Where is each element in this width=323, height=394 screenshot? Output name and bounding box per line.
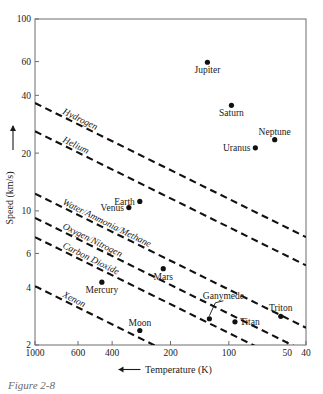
data-point-label: Titan <box>240 317 260 327</box>
plot-area: 10006004002001005040 24610204060100 Hydr… <box>0 0 323 360</box>
y-tick-label: 10 <box>22 206 32 216</box>
x-axis-arrow-head <box>119 367 124 373</box>
gas-line <box>35 103 306 237</box>
data-point-label: Saturn <box>219 108 244 118</box>
data-point-label: Venus <box>101 203 125 213</box>
data-point <box>137 328 142 333</box>
data-point-label: Jupiter <box>194 65 221 75</box>
y-axis-ticks: 24610204060100 <box>17 14 39 350</box>
data-point <box>137 199 142 204</box>
y-tick-label: 100 <box>17 14 32 24</box>
data-point-labels: JupiterSaturnNeptuneUranusEarthVenusMars… <box>85 65 292 327</box>
y-axis-title: Speed (km/s) <box>4 171 16 224</box>
data-point-label: Triton <box>269 303 293 313</box>
y-tick-label: 60 <box>22 57 32 67</box>
y-tick-label: 6 <box>26 249 31 259</box>
data-point <box>272 137 277 142</box>
x-tick-label: 100 <box>222 348 237 358</box>
data-point <box>205 60 210 65</box>
y-tick-label: 4 <box>26 283 31 293</box>
data-point <box>278 314 283 319</box>
x-axis-title: Temperature (K) <box>145 364 212 376</box>
data-point-label: Uranus <box>223 143 251 153</box>
data-point-label: Mercury <box>85 285 118 295</box>
data-point <box>253 145 258 150</box>
y-axis-arrow-head <box>10 125 16 131</box>
data-point <box>232 319 237 324</box>
data-point-label: Mars <box>153 272 173 282</box>
label-leader-line <box>209 301 223 316</box>
figure-caption: Figure 2-8 <box>8 379 318 394</box>
data-point <box>161 266 166 271</box>
data-point <box>207 316 212 321</box>
x-tick-label: 50 <box>282 348 292 358</box>
data-point <box>99 280 104 285</box>
y-tick-label: 2 <box>26 340 31 350</box>
x-tick-label: 40 <box>301 348 311 358</box>
escape-velocity-chart: 10006004002001005040 24610204060100 Hydr… <box>0 0 323 360</box>
gas-line-label: Helium <box>60 134 91 156</box>
gas-line <box>35 218 306 352</box>
gas-line-label: Xenon <box>60 289 87 309</box>
data-point-label: Moon <box>128 318 151 328</box>
gas-line <box>35 194 306 328</box>
x-tick-label: 200 <box>163 348 178 358</box>
data-point-label: Ganymede <box>203 291 244 301</box>
x-axis-ticks: 10006004002001005040 <box>26 341 312 358</box>
data-point-label: Neptune <box>259 127 291 137</box>
x-tick-label: 600 <box>71 348 86 358</box>
y-tick-label: 40 <box>22 91 32 101</box>
figure-container: 10006004002001005040 24610204060100 Hydr… <box>0 0 323 394</box>
y-tick-label: 20 <box>22 149 32 159</box>
x-tick-label: 400 <box>105 348 120 358</box>
data-point <box>229 103 234 108</box>
figure-caption-text: Figure 2-8 <box>8 379 318 392</box>
